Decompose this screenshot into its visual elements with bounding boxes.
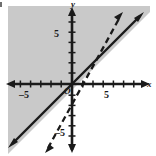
plot-svg: [0, 0, 156, 156]
coordinate-plane-graph: y x –5 5 5 –5 O: [0, 0, 156, 156]
x-axis-label: x: [147, 80, 152, 89]
y-tick-label-neg5: –5: [55, 128, 65, 138]
origin-label: O: [64, 87, 71, 96]
y-axis-label: y: [71, 0, 75, 9]
y-tick-label-pos5: 5: [54, 29, 59, 39]
x-tick-label-neg5: –5: [19, 90, 29, 100]
x-tick-label-pos5: 5: [104, 90, 109, 100]
